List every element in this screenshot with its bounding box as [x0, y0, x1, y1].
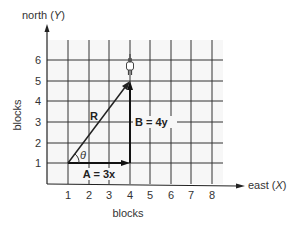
- svg-text:3: 3: [106, 189, 112, 201]
- vector-b-label: B = 4y: [135, 116, 169, 128]
- svg-text:4: 4: [35, 95, 41, 107]
- vector-diagram: north (Y) east (X) 1 2 3 4 5 6 1 2 3 4 5…: [0, 0, 299, 229]
- x-axis-arrow-icon: [236, 184, 245, 189]
- angle-theta-label: θ: [80, 149, 86, 161]
- svg-text:1: 1: [65, 189, 71, 201]
- svg-text:7: 7: [188, 189, 194, 201]
- svg-text:5: 5: [35, 75, 41, 87]
- svg-text:3: 3: [35, 116, 41, 128]
- svg-text:6: 6: [35, 54, 41, 66]
- vector-a-label: A = 3x: [83, 168, 116, 180]
- x-tick-labels: 1 2 3 4 5 6 7 8: [65, 189, 215, 201]
- x-axis-title: east (X): [248, 179, 287, 191]
- x-axis: [47, 184, 238, 186]
- svg-text:8: 8: [209, 189, 215, 201]
- y-axis-arrow-icon: [45, 24, 50, 32]
- y-tick-labels: 1 2 3 4 5 6: [35, 54, 41, 169]
- svg-text:4: 4: [127, 189, 133, 201]
- y-axis-label: blocks: [11, 99, 23, 131]
- vector-r-label: R: [90, 110, 98, 122]
- svg-text:5: 5: [147, 189, 153, 201]
- svg-text:2: 2: [35, 137, 41, 149]
- y-axis-title: north (Y): [22, 9, 65, 21]
- svg-text:6: 6: [168, 189, 174, 201]
- svg-text:2: 2: [86, 189, 92, 201]
- x-axis-label: blocks: [112, 207, 144, 219]
- svg-text:1: 1: [35, 157, 41, 169]
